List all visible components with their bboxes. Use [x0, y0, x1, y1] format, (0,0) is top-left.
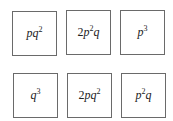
- term-text: 2pq2: [79, 88, 101, 103]
- term-box-p3: p3: [120, 10, 165, 55]
- term-text: p2q: [136, 88, 152, 103]
- term-text: pq2: [27, 26, 43, 41]
- term-box-pq2: pq2: [12, 11, 57, 56]
- term-text: p3: [138, 25, 148, 40]
- term-text: 2p2q: [78, 25, 100, 40]
- term-box-2pq2: 2pq2: [67, 73, 112, 118]
- term-box-p2q: p2q: [121, 73, 166, 118]
- term-box-2p2q: 2p2q: [66, 10, 111, 55]
- term-box-q3: q3: [13, 73, 58, 118]
- term-text: q3: [31, 88, 41, 103]
